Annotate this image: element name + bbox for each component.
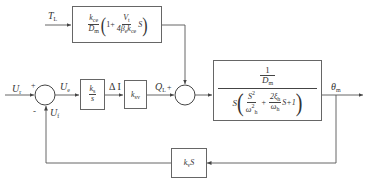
valve-gain-block: ksv	[124, 80, 147, 109]
current-signal-label: Δ I	[109, 82, 121, 92]
feedback-gain-block: kvS	[171, 148, 207, 178]
flow-signal-label: QL+	[155, 82, 171, 93]
output-signal-label: θm	[331, 82, 341, 93]
load-torque-label: TL	[48, 11, 57, 22]
feedback-signal-label: Uf	[50, 108, 59, 119]
reference-label: Ur	[12, 84, 21, 95]
sum1-minus-sign: -	[33, 107, 36, 116]
controller-block: kss	[80, 79, 105, 110]
error-signal-label: Ue	[60, 82, 70, 93]
disturbance-transfer-block: kceDm ( 1+ Vt4βekce S )	[72, 6, 162, 43]
sum1-plus-sign: +	[31, 82, 36, 90]
plant-transfer-block: 1 Dm S ( S2ω2h + 2ξhωh S+1 )	[213, 60, 322, 121]
